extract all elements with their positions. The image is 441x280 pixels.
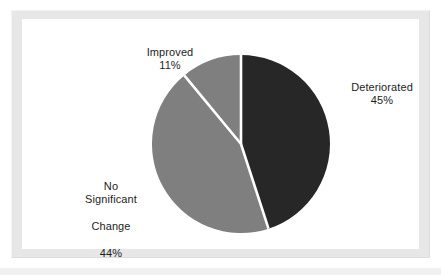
slice-label-deteriorated-percent: 45% [330,94,434,108]
slice-label-improved-name: Improved [147,46,194,58]
slice-label-improved-percent: 11% [110,59,230,73]
slice-label-nochange-percent: 44% [56,247,166,261]
slice-label-improved: Improved 11% [110,32,230,86]
slice-label-deteriorated: Deteriorated 45% [330,67,434,121]
slice-label-nochange-line3: Change [56,220,166,234]
slice-label-deteriorated-name: Deteriorated [351,81,413,93]
slice-label-nochange-line2: Significant [56,193,166,207]
slice-label-no-significant-change: No Significant Change 44% [56,166,166,274]
slice-label-nochange-line1: No [104,180,118,192]
pie-chart-figure: Improved 11% Deteriorated 45% No Signifi… [0,0,441,280]
